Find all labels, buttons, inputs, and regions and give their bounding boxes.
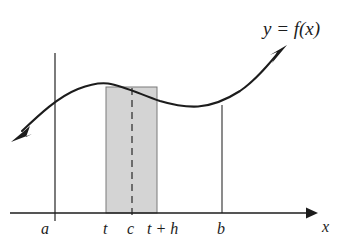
curve-left-arrowhead-icon [11, 126, 32, 142]
x-axis-label: x [322, 219, 329, 235]
tick-label-t-plus-h: t + h [147, 221, 178, 237]
tick-label-c: c [127, 221, 134, 237]
curve-equation-label: y = f(x) [263, 19, 320, 38]
calculus-figure: y = f(x) x a t c t + h b [0, 0, 343, 250]
x-axis-arrowhead-icon [306, 208, 318, 219]
tick-label-b: b [217, 221, 225, 237]
tick-label-t: t [103, 221, 107, 237]
tick-label-a: a [41, 221, 49, 237]
